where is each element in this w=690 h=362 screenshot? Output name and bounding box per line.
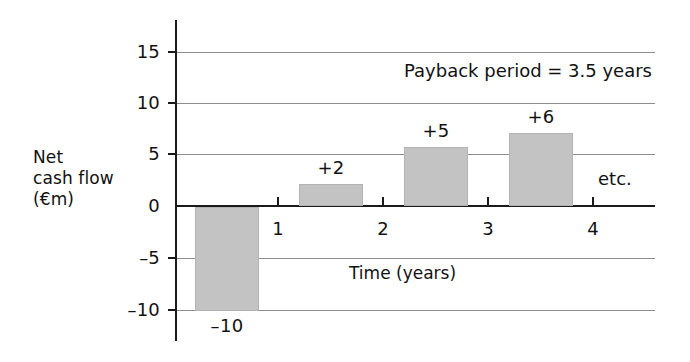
bar-year-1 bbox=[299, 184, 363, 206]
x-tick-mark-4 bbox=[592, 197, 594, 206]
x-tick-mark-3 bbox=[487, 197, 489, 206]
x-tick-label-1: 1 bbox=[258, 220, 298, 238]
y-tick-mark-minus-10 bbox=[168, 309, 176, 311]
y-tick-mark-5 bbox=[168, 153, 176, 155]
y-tick-label-minus-10: –10 bbox=[100, 301, 160, 319]
gridline-15 bbox=[176, 52, 655, 53]
y-tick-label-5: 5 bbox=[100, 145, 160, 163]
y-tick-label-0: 0 bbox=[100, 197, 160, 215]
bar-label-year-3: +6 bbox=[501, 108, 581, 126]
bar-label-year-1: +2 bbox=[291, 159, 371, 177]
bar-year-3 bbox=[509, 133, 573, 206]
x-tick-mark-1 bbox=[277, 197, 279, 206]
bar-year-2 bbox=[404, 147, 468, 206]
y-tick-label-10: 10 bbox=[100, 94, 160, 112]
x-tick-label-4: 4 bbox=[573, 220, 613, 238]
bar-year-0 bbox=[195, 207, 259, 311]
cash-flow-bar-chart: Net cash flow (€m) 15 10 5 0 –5 –10 –10 … bbox=[0, 0, 690, 362]
plot-area: 15 10 5 0 –5 –10 –10 +2 +5 +6 1 2 3 4 Ti… bbox=[0, 0, 690, 362]
y-tick-mark-minus-5 bbox=[168, 257, 176, 259]
y-tick-mark-10 bbox=[168, 102, 176, 104]
x-tick-label-2: 2 bbox=[363, 220, 403, 238]
x-axis-title: Time (years) bbox=[349, 265, 456, 282]
x-tick-label-3: 3 bbox=[468, 220, 508, 238]
x-tick-mark-2 bbox=[382, 197, 384, 206]
payback-period-annotation: Payback period = 3.5 years bbox=[404, 62, 652, 80]
y-axis-line bbox=[175, 20, 177, 341]
y-tick-label-15: 15 bbox=[100, 43, 160, 61]
etc-annotation: etc. bbox=[598, 170, 632, 188]
gridline-10 bbox=[176, 103, 655, 104]
y-tick-mark-15 bbox=[168, 51, 176, 53]
bar-label-year-0: –10 bbox=[187, 317, 267, 335]
y-tick-label-minus-5: –5 bbox=[100, 249, 160, 267]
bar-label-year-2: +5 bbox=[396, 122, 476, 140]
